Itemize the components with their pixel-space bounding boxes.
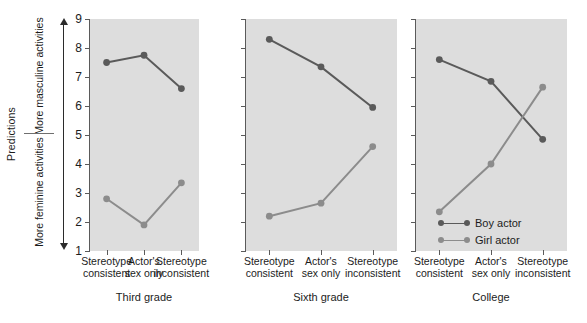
- x-axis-label: Stereotypeinconsistent: [154, 255, 209, 279]
- x-axis-label: Stereotypeinconsistent: [515, 255, 570, 279]
- data-point: [318, 63, 325, 70]
- data-point: [539, 136, 546, 143]
- chart-legend: Boy actorGirl actor: [438, 216, 521, 250]
- series-line-boy-actor: [439, 60, 542, 140]
- x-axis-label: Stereotypeconsistent: [414, 255, 465, 279]
- y-tick-label: 5: [68, 129, 82, 141]
- data-point: [488, 161, 495, 168]
- series-line-girl-actor: [107, 183, 182, 225]
- arrow-down-head-icon: [60, 243, 68, 250]
- chart-figure: Predictions More masculine activities Mo…: [0, 0, 587, 323]
- legend-dot-right: [464, 237, 470, 243]
- data-point: [436, 208, 443, 215]
- legend-swatch: [438, 235, 470, 245]
- y-axis-title: Predictions: [2, 18, 20, 250]
- y-axis-upper-half: More masculine activities: [22, 18, 56, 134]
- y-tick-label: 7: [68, 71, 82, 83]
- legend-swatch: [438, 218, 470, 228]
- y-tick-label: 6: [68, 100, 82, 112]
- y-axis-half-divider: [24, 133, 54, 134]
- data-point: [369, 104, 376, 111]
- x-axis-label: Stereotypeinconsistent: [345, 255, 400, 279]
- y-tick-label: 9: [68, 13, 82, 25]
- y-tick-label: 2: [68, 216, 82, 228]
- data-point: [369, 143, 376, 150]
- data-point: [103, 59, 110, 66]
- data-point: [318, 200, 325, 207]
- legend-item: Boy actor: [438, 216, 521, 230]
- series-line-boy-actor: [107, 55, 182, 88]
- series-layer: [245, 19, 397, 251]
- legend-dot-left: [438, 220, 444, 226]
- legend-label: Girl actor: [475, 234, 520, 246]
- data-point: [539, 84, 546, 91]
- y-axis-upper-label: More masculine activities: [33, 17, 45, 134]
- series-line-boy-actor: [269, 39, 372, 107]
- y-tick: [241, 251, 246, 252]
- arrow-stem: [63, 24, 64, 244]
- y-tick-label: 3: [68, 187, 82, 199]
- legend-item: Girl actor: [438, 233, 521, 247]
- y-tick: [411, 251, 416, 252]
- data-point: [178, 85, 185, 92]
- y-tick: [85, 251, 90, 252]
- series-layer: [89, 19, 199, 251]
- y-tick-label: 8: [68, 42, 82, 54]
- legend-label: Boy actor: [475, 217, 521, 229]
- data-point: [436, 56, 443, 63]
- data-point: [141, 222, 148, 229]
- panel-sixth-grade: StereotypeconsistentActor'ssex onlyStere…: [245, 19, 397, 251]
- y-axis-lower-label: More feminine activities: [33, 137, 45, 247]
- y-tick-label: 1: [68, 245, 82, 257]
- y-axis-half-labels: More masculine activities More feminine …: [22, 18, 56, 250]
- x-axis-label: Actor'ssex only: [302, 255, 341, 279]
- legend-dot-left: [438, 237, 444, 243]
- panel-title: Sixth grade: [293, 291, 349, 303]
- data-point: [178, 179, 185, 186]
- panel-title: Third grade: [116, 291, 172, 303]
- data-point: [266, 213, 273, 220]
- x-axis-label: Stereotypeconsistent: [244, 255, 295, 279]
- data-point: [266, 36, 273, 43]
- panel-third-grade: 123456789StereotypeconsistentActor'ssex …: [89, 19, 199, 251]
- x-axis-label: Actor'ssex only: [472, 255, 511, 279]
- y-tick-label: 4: [68, 158, 82, 170]
- series-line-girl-actor: [439, 87, 542, 212]
- data-point: [141, 52, 148, 59]
- panel-title: College: [472, 291, 509, 303]
- data-point: [488, 78, 495, 85]
- y-axis-title-text: Predictions: [5, 107, 17, 161]
- legend-dot-right: [464, 220, 470, 226]
- y-axis-lower-half: More feminine activities: [22, 134, 56, 250]
- data-point: [103, 195, 110, 202]
